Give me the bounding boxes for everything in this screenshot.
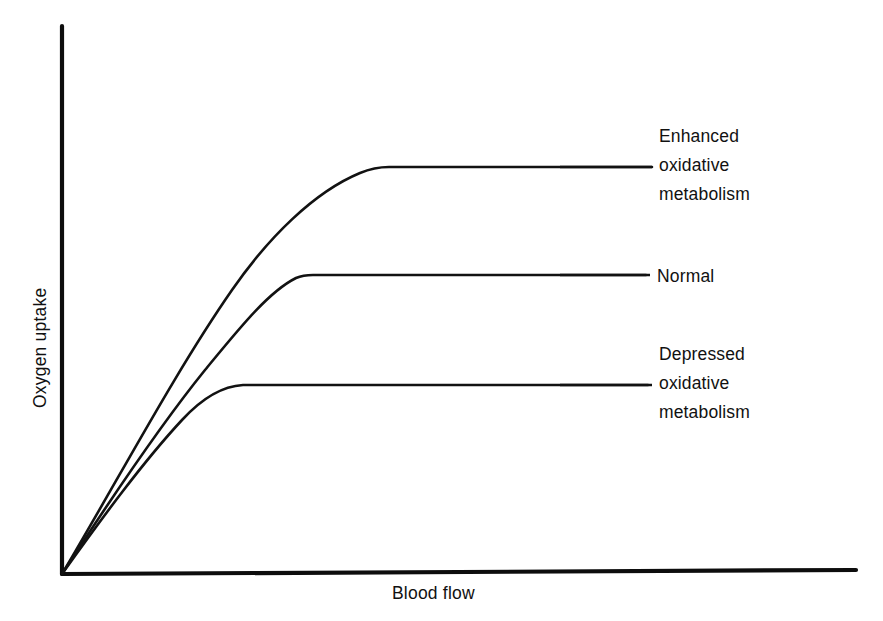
annotation-depressed-oxidative-metabolism: Depressed oxidative metabolism — [659, 340, 750, 427]
annotation-normal-line-1: Normal — [657, 262, 714, 291]
x-axis-title: Blood flow — [392, 583, 475, 604]
curve-enhanced-oxidative-metabolism — [62, 167, 652, 574]
annotation-depressed-line-1: Depressed — [659, 340, 750, 369]
annotation-normal: Normal — [657, 262, 714, 291]
oxygen-uptake-vs-blood-flow-figure: Oxygen uptake Blood flow Enhanced oxidat… — [0, 0, 883, 621]
x-axis-line — [62, 570, 856, 574]
annotation-enhanced-line-2: oxidative — [659, 151, 750, 180]
annotation-enhanced-line-3: metabolism — [659, 180, 750, 209]
annotation-depressed-line-2: oxidative — [659, 369, 750, 398]
y-axis-title: Oxygen uptake — [30, 288, 51, 408]
curve-depressed-oxidative-metabolism — [62, 385, 648, 574]
annotation-depressed-line-3: metabolism — [659, 398, 750, 427]
plot-canvas — [0, 0, 883, 621]
annotation-enhanced-line-1: Enhanced — [659, 122, 750, 151]
annotation-enhanced-oxidative-metabolism: Enhanced oxidative metabolism — [659, 122, 750, 209]
